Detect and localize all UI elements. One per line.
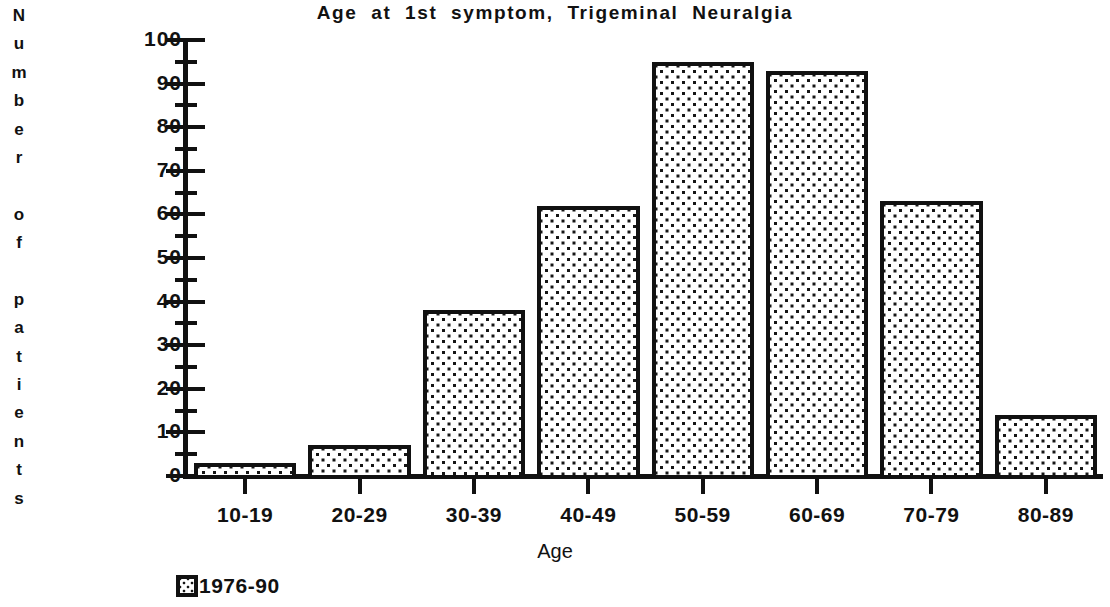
y-major-tick bbox=[166, 169, 205, 173]
y-minor-tick bbox=[175, 191, 197, 195]
y-minor-tick bbox=[175, 452, 197, 456]
x-tick-label: 10-19 bbox=[188, 503, 302, 527]
y-major-tick bbox=[166, 38, 205, 42]
y-minor-tick bbox=[175, 234, 197, 238]
x-tick-label: 60-69 bbox=[760, 503, 874, 527]
y-minor-tick bbox=[175, 278, 197, 282]
y-major-tick bbox=[166, 256, 205, 260]
y-major-tick bbox=[166, 82, 205, 86]
bar bbox=[194, 463, 296, 479]
y-minor-tick bbox=[175, 103, 197, 107]
x-tick-label: 70-79 bbox=[874, 503, 988, 527]
bar bbox=[537, 206, 639, 479]
legend: 1976-90 bbox=[176, 574, 280, 598]
y-minor-tick bbox=[175, 365, 197, 369]
y-minor-tick bbox=[175, 409, 197, 413]
plot-area: 0102030405060708090100 10-1920-2930-3940… bbox=[0, 0, 1110, 607]
bar bbox=[995, 415, 1097, 479]
bar bbox=[652, 62, 754, 479]
x-tick bbox=[586, 479, 590, 494]
x-tick bbox=[815, 479, 819, 494]
x-tick bbox=[358, 479, 362, 494]
y-major-tick bbox=[166, 343, 205, 347]
y-major-tick bbox=[166, 300, 205, 304]
y-major-tick bbox=[166, 387, 205, 391]
bar bbox=[766, 71, 868, 479]
legend-swatch-icon bbox=[176, 575, 198, 597]
legend-label: 1976-90 bbox=[199, 574, 280, 598]
x-tick-label: 20-29 bbox=[302, 503, 416, 527]
x-tick-label: 50-59 bbox=[646, 503, 760, 527]
bar bbox=[423, 310, 525, 479]
y-minor-tick bbox=[175, 321, 197, 325]
chart-page: Age at 1st symptom, Trigeminal Neuralgia… bbox=[0, 0, 1110, 607]
x-tick bbox=[929, 479, 933, 494]
y-major-tick bbox=[166, 212, 205, 216]
y-minor-tick bbox=[175, 147, 197, 151]
x-tick-label: 30-39 bbox=[417, 503, 531, 527]
y-major-tick bbox=[166, 430, 205, 434]
y-major-tick bbox=[166, 125, 205, 129]
x-tick bbox=[243, 479, 247, 494]
x-tick bbox=[701, 479, 705, 494]
bar bbox=[308, 445, 410, 479]
y-minor-tick bbox=[175, 60, 197, 64]
x-axis-title: Age bbox=[0, 540, 1110, 563]
bar bbox=[880, 201, 982, 479]
x-tick bbox=[1044, 479, 1048, 494]
x-tick bbox=[472, 479, 476, 494]
x-tick-label: 80-89 bbox=[989, 503, 1103, 527]
x-tick-label: 40-49 bbox=[531, 503, 645, 527]
